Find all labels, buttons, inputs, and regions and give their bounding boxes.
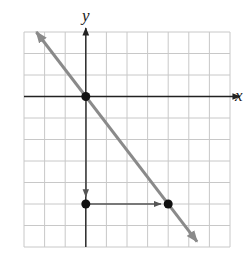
data-point: [81, 200, 90, 209]
data-point: [81, 92, 90, 101]
data-point: [164, 200, 173, 209]
x-axis-label: x: [235, 86, 243, 106]
plotted-line: [36, 32, 197, 242]
grid-lines: [24, 32, 230, 247]
plot-layer: [36, 32, 197, 242]
axes: [24, 28, 240, 247]
y-axis-label: y: [82, 6, 90, 26]
coordinate-plane: [0, 0, 251, 253]
